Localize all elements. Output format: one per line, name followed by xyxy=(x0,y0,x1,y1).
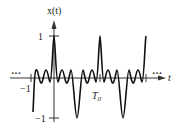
x-tick-label-minus-1: −1 xyxy=(20,83,31,94)
signal-curve xyxy=(33,36,146,118)
left-ellipsis: ··· xyxy=(11,68,21,79)
y-axis-label: x(t) xyxy=(47,5,61,17)
x-axis-label: t xyxy=(168,72,171,83)
period-label: T0 xyxy=(92,90,102,103)
y-tick-label-minus-1: −1 xyxy=(35,113,46,124)
y-tick-label-1: 1 xyxy=(38,31,43,42)
y-axis-arrow-icon xyxy=(52,20,57,29)
signal-plot: x(t) 1 −1 −1 T0 t ··· ··· xyxy=(0,0,193,132)
right-ellipsis: ··· xyxy=(152,68,162,79)
